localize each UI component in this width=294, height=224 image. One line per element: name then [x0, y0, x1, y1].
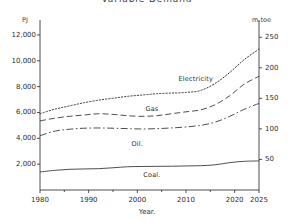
series-line-gas: [40, 76, 259, 121]
x-tick-2025: 2025: [250, 196, 268, 204]
y-tick-left-12000: 12,000: [2, 31, 36, 39]
series-label-coal: Coal.: [143, 171, 160, 179]
y-tick-right-50: 50: [265, 155, 274, 163]
x-tick-1980: 1980: [31, 196, 49, 204]
y-tick-right-150: 150: [265, 94, 278, 102]
y-tick-left-2000: 2,000: [2, 160, 36, 168]
x-tick-1990: 1990: [80, 196, 98, 204]
y-tick-left-8000: 8,000: [2, 83, 36, 91]
y-tick-left-10000: 10,000: [2, 57, 36, 65]
series-line-electricity: [40, 49, 259, 114]
x-tick-2010: 2010: [177, 196, 195, 204]
y-tick-right-200: 200: [265, 64, 278, 72]
y-tick-left-6000: 6,000: [2, 108, 36, 116]
x-tick-2000: 2000: [128, 196, 146, 204]
chart-container: Variable Demand PJ m.toe Year. 2,0004,00…: [0, 0, 294, 224]
x-tick-2020: 2020: [226, 196, 244, 204]
y-tick-left-4000: 4,000: [2, 134, 36, 142]
series-label-electricity: Electricity: [178, 75, 213, 83]
x-axis-title: Year.: [139, 208, 155, 216]
series-label-oil: Oil.: [132, 140, 144, 148]
series-label-gas: Gas: [145, 105, 158, 113]
y-tick-right-250: 250: [265, 33, 278, 41]
y-tick-right-100: 100: [265, 125, 278, 133]
